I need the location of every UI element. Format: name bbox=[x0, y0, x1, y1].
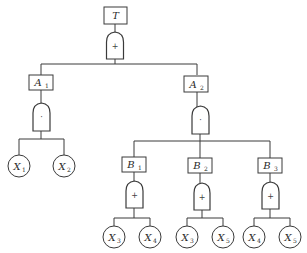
event-a1-sub: 1 bbox=[45, 82, 49, 89]
basic-event-sub: 5 bbox=[226, 237, 230, 244]
gate-symbol: + bbox=[199, 193, 206, 202]
basic-event-letter: X bbox=[107, 232, 116, 243]
connector-b3-branch bbox=[254, 218, 290, 226]
basic-event-sub: 2 bbox=[67, 166, 71, 173]
gate-symbol: · bbox=[199, 116, 202, 125]
gate-symbol: + bbox=[112, 42, 119, 51]
basic-event-x1: X 1 bbox=[8, 155, 30, 177]
basic-event-sub: 4 bbox=[257, 237, 261, 244]
fault-tree-diagram: T + A 1 · A 2 · B 1 + B 2 + bbox=[0, 0, 307, 253]
connector-b1-branch bbox=[114, 218, 150, 226]
basic-event-sub: 4 bbox=[153, 237, 157, 244]
event-b2-letter: B bbox=[192, 160, 200, 171]
gate-symbol: + bbox=[267, 192, 274, 201]
basic-event-x3: X 3 bbox=[103, 226, 125, 248]
or-gate-b3: + bbox=[262, 182, 279, 209]
basic-event-letter: X bbox=[283, 232, 292, 243]
connector-a1-branch bbox=[19, 139, 64, 155]
event-b3-letter: B bbox=[262, 160, 270, 171]
basic-event-letter: X bbox=[57, 161, 66, 172]
basic-event-sub: 5 bbox=[293, 237, 297, 244]
basic-event-letter: X bbox=[180, 232, 189, 243]
gate-symbol: + bbox=[131, 191, 138, 200]
gate-symbol: · bbox=[40, 113, 43, 122]
basic-event-x3: X 3 bbox=[176, 226, 198, 248]
basic-event-x5: X 5 bbox=[279, 226, 301, 248]
event-b3: B 3 bbox=[258, 158, 282, 173]
basic-event-x4: X 4 bbox=[139, 226, 161, 248]
event-a1-letter: A bbox=[33, 77, 41, 88]
basic-event-letter: X bbox=[247, 232, 256, 243]
and-gate-a1: · bbox=[33, 103, 50, 131]
connector-b2-branch bbox=[187, 218, 223, 226]
event-a2-sub: 2 bbox=[200, 84, 204, 91]
event-t: T bbox=[104, 7, 127, 24]
event-b2-sub: 2 bbox=[204, 165, 208, 172]
connector-t-branch bbox=[41, 64, 197, 75]
event-b2: B 2 bbox=[188, 158, 212, 173]
connector-a2-branch bbox=[134, 141, 270, 158]
basic-event-sub: 3 bbox=[117, 237, 121, 244]
basic-event-x5: X 5 bbox=[212, 226, 234, 248]
or-gate-b2: + bbox=[194, 183, 210, 210]
event-b1: B 1 bbox=[122, 157, 146, 172]
basic-event-x2: X 2 bbox=[53, 155, 75, 177]
event-a2: A 2 bbox=[184, 76, 208, 92]
basic-event-letter: X bbox=[143, 232, 152, 243]
event-a1: A 1 bbox=[29, 75, 53, 90]
basic-event-sub: 3 bbox=[190, 237, 194, 244]
basic-event-sub: 1 bbox=[22, 166, 26, 173]
event-b1-letter: B bbox=[126, 159, 134, 170]
basic-event-letter: X bbox=[12, 161, 21, 172]
or-gate-b1: + bbox=[126, 181, 143, 208]
basic-event-x4: X 4 bbox=[243, 226, 265, 248]
event-a2-letter: A bbox=[188, 79, 196, 90]
event-b1-sub: 1 bbox=[138, 164, 142, 171]
connectors bbox=[19, 24, 290, 226]
event-b3-sub: 3 bbox=[274, 165, 278, 172]
basic-event-letter: X bbox=[216, 232, 225, 243]
or-gate-t: + bbox=[107, 32, 124, 59]
and-gate-a2: · bbox=[192, 106, 209, 134]
